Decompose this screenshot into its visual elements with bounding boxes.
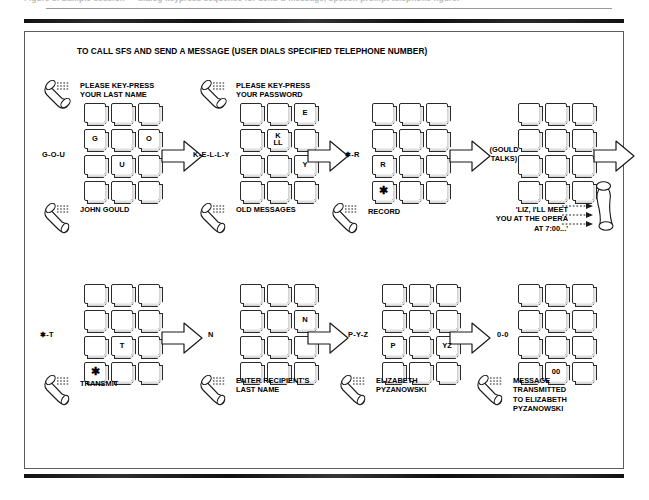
key-blank-r4c2[interactable] <box>409 362 431 382</box>
key-blank-r1c3[interactable] <box>138 284 160 304</box>
key-blank-r1c2[interactable] <box>267 284 289 304</box>
key-blank-r3c1[interactable] <box>518 336 540 356</box>
key-blank-r4c1[interactable] <box>240 362 262 382</box>
key-blank-r4c2[interactable] <box>111 362 133 382</box>
key-blank-r2c1[interactable] <box>518 129 540 149</box>
key-blank-r4c1[interactable] <box>382 362 404 382</box>
key-yz[interactable]: YZ <box>436 336 458 356</box>
key-blank-r1c1[interactable] <box>382 284 404 304</box>
key-blank-r4c2[interactable] <box>267 181 289 201</box>
key-blank-r4c1[interactable] <box>84 181 106 201</box>
key-blank-r3c3[interactable] <box>426 155 448 175</box>
key-blank-r2c2[interactable] <box>545 310 567 330</box>
keypad-step-6[interactable]: N <box>240 284 322 392</box>
keypad-step-2[interactable]: EKLLY <box>240 103 322 211</box>
key-blank-r3c2[interactable] <box>399 155 421 175</box>
key-blank-r1c3[interactable] <box>138 103 160 123</box>
key-blank-r1c3[interactable] <box>572 284 594 304</box>
key-blank-r2c3[interactable] <box>294 129 316 149</box>
key-blank-r3c1[interactable] <box>518 155 540 175</box>
key-blank-r4c1[interactable] <box>518 181 540 201</box>
key-blank-r2c3[interactable] <box>436 310 458 330</box>
keypad-step-8[interactable]: 00 <box>518 284 600 392</box>
keypad-step-5[interactable]: T✱ <box>84 284 166 392</box>
key-blank-r3c3[interactable] <box>294 336 316 356</box>
key-[interactable]: ✱ <box>372 181 394 201</box>
key-t[interactable]: T <box>111 336 133 356</box>
key-blank-r4c3[interactable] <box>426 181 448 201</box>
key-r[interactable]: R <box>372 155 394 175</box>
key-blank-r1c3[interactable] <box>294 284 316 304</box>
key-blank-r2c1[interactable] <box>518 310 540 330</box>
key-blank-r3c3[interactable] <box>138 336 160 356</box>
key-k[interactable]: KLL <box>267 129 289 149</box>
key-blank-r3c1[interactable] <box>84 336 106 356</box>
key-blank-r2c2[interactable] <box>111 310 133 330</box>
key-blank-r3c3[interactable] <box>572 155 594 175</box>
key-blank-r1c2[interactable] <box>545 284 567 304</box>
key-blank-r2c3[interactable] <box>426 129 448 149</box>
key-blank-r3c3[interactable] <box>138 155 160 175</box>
key-blank-r4c3[interactable] <box>294 181 316 201</box>
key-blank-r1c2[interactable] <box>545 103 567 123</box>
key-blank-r1c2[interactable] <box>399 103 421 123</box>
key-blank-r2c1[interactable] <box>240 129 262 149</box>
key-blank-r3c2[interactable] <box>267 155 289 175</box>
key-blank-r3c1[interactable] <box>240 336 262 356</box>
key-blank-r1c3[interactable] <box>426 103 448 123</box>
key-blank-r4c3[interactable] <box>436 362 458 382</box>
key-blank-r3c2[interactable] <box>545 155 567 175</box>
key-blank-r4c2[interactable] <box>399 181 421 201</box>
key-u[interactable]: U <box>111 155 133 175</box>
key-blank-r1c1[interactable] <box>518 103 540 123</box>
key-o[interactable]: O <box>138 129 160 149</box>
keypad-step-7[interactable]: PYZ <box>382 284 464 392</box>
keypad-step-3[interactable]: R✱ <box>372 103 454 211</box>
key-blank-r4c3[interactable] <box>294 362 316 382</box>
key-blank-r1c3[interactable] <box>436 284 458 304</box>
key-blank-r2c3[interactable] <box>138 310 160 330</box>
key-n[interactable]: N <box>294 310 316 330</box>
key-blank-r1c2[interactable] <box>111 284 133 304</box>
key-blank-r2c2[interactable] <box>111 129 133 149</box>
key-00[interactable]: 00 <box>545 362 567 382</box>
key-blank-r2c3[interactable] <box>572 310 594 330</box>
key-blank-r4c2[interactable] <box>111 181 133 201</box>
key-blank-r2c1[interactable] <box>382 310 404 330</box>
key-blank-r4c2[interactable] <box>545 181 567 201</box>
key-blank-r2c2[interactable] <box>267 310 289 330</box>
key-blank-r2c3[interactable] <box>572 129 594 149</box>
key-blank-r4c3[interactable] <box>138 181 160 201</box>
key-blank-r1c3[interactable] <box>572 103 594 123</box>
key-blank-r4c3[interactable] <box>572 181 594 201</box>
key-blank-r2c2[interactable] <box>409 310 431 330</box>
key-blank-r1c1[interactable] <box>84 103 106 123</box>
key-e[interactable]: E <box>294 103 316 123</box>
key-blank-r1c1[interactable] <box>240 284 262 304</box>
key-blank-r3c3[interactable] <box>572 336 594 356</box>
key-y[interactable]: Y <box>294 155 316 175</box>
key-blank-r1c2[interactable] <box>111 103 133 123</box>
key-blank-r1c1[interactable] <box>518 284 540 304</box>
key-blank-r2c1[interactable] <box>372 129 394 149</box>
key-blank-r3c1[interactable] <box>84 155 106 175</box>
key-blank-r1c1[interactable] <box>240 103 262 123</box>
keypad-step-4[interactable] <box>518 103 600 211</box>
key-blank-r1c1[interactable] <box>372 103 394 123</box>
key-g[interactable]: G <box>84 129 106 149</box>
key-blank-r4c3[interactable] <box>138 362 160 382</box>
key-blank-r3c2[interactable] <box>545 336 567 356</box>
key-blank-r1c2[interactable] <box>267 103 289 123</box>
key-blank-r3c2[interactable] <box>267 336 289 356</box>
key-p[interactable]: P <box>382 336 404 356</box>
key-blank-r1c1[interactable] <box>84 284 106 304</box>
key-[interactable]: ✱ <box>84 362 106 382</box>
key-blank-r2c1[interactable] <box>240 310 262 330</box>
key-blank-r2c2[interactable] <box>545 129 567 149</box>
key-blank-r4c1[interactable] <box>240 181 262 201</box>
key-blank-r1c2[interactable] <box>409 284 431 304</box>
key-blank-r3c2[interactable] <box>409 336 431 356</box>
key-blank-r4c2[interactable] <box>267 362 289 382</box>
key-blank-r4c1[interactable] <box>518 362 540 382</box>
key-blank-r2c2[interactable] <box>399 129 421 149</box>
